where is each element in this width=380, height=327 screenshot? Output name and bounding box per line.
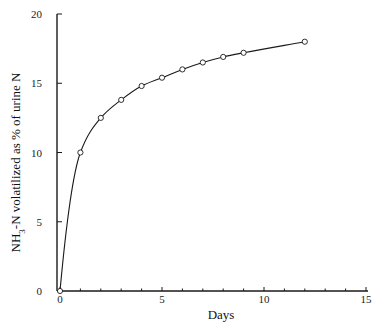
y-tick-label: 10 xyxy=(31,147,43,159)
x-axis-title: Days xyxy=(208,307,235,322)
data-point xyxy=(221,54,226,59)
y-tick-label: 0 xyxy=(37,285,43,297)
x-tick-label: 5 xyxy=(159,293,165,305)
data-point xyxy=(98,115,103,120)
chart: 05101520 051015 Days NH3-N volatilized a… xyxy=(0,0,380,327)
data-markers xyxy=(57,39,307,294)
fitted-curve xyxy=(60,42,305,291)
axes xyxy=(57,14,368,291)
data-point xyxy=(302,39,307,44)
data-point xyxy=(78,150,83,155)
data-point xyxy=(57,288,62,293)
x-ticks: 051015 xyxy=(57,287,372,305)
data-point xyxy=(159,75,164,80)
y-tick-label: 5 xyxy=(37,216,43,228)
x-tick-label: 10 xyxy=(259,293,271,305)
y-tick-label: 15 xyxy=(31,77,43,89)
x-tick-label: 15 xyxy=(361,293,373,305)
y-axis-title: NH3-N volatilized as % of urine N xyxy=(8,72,27,253)
data-point xyxy=(241,50,246,55)
y-tick-label: 20 xyxy=(31,8,43,20)
data-point xyxy=(200,60,205,65)
y-axis-title-part-2: -N volatilized as % of urine N xyxy=(8,72,23,229)
y-axis-title-part-1: NH xyxy=(8,234,23,253)
data-point xyxy=(180,67,185,72)
data-point xyxy=(119,97,124,102)
x-tick-label: 0 xyxy=(57,293,63,305)
data-point xyxy=(139,83,144,88)
